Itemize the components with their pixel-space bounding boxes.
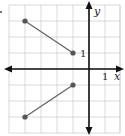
endpoint-closed (22, 18, 27, 23)
y-axis-down-arrow-icon (86, 127, 93, 135)
y-unit-label: 1 (80, 48, 86, 59)
y-axis-label: y (93, 5, 101, 18)
endpoint-closed (70, 82, 75, 87)
endpoint-closed (22, 114, 27, 119)
endpoint-closed (70, 50, 75, 55)
x-axis-label: x (114, 70, 121, 83)
x-axis-left-arrow-icon (4, 66, 12, 73)
stray-dot (0, 11, 2, 13)
piecewise-graph: y x 1 1 (0, 0, 125, 136)
x-unit-label: 1 (102, 71, 108, 82)
